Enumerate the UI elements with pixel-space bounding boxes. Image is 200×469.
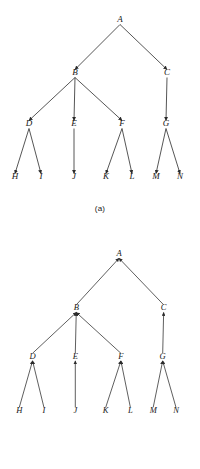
tree-node-e: E [72, 351, 79, 361]
tree-diagram-a: ABCDEFGHIJKLMN [0, 0, 200, 200]
tree-node-h: H [11, 171, 19, 181]
tree-node-k: K [102, 405, 110, 415]
tree-node-f: F [117, 351, 124, 361]
figure-root: ABCDEFGHIJKLMN (a) ABCDEFGHIJKLMN (b) [0, 0, 200, 469]
tree-node-n: N [176, 171, 184, 181]
tree-edge-b-d [29, 78, 75, 121]
tree-node-j: J [73, 405, 78, 415]
edges-group-b [19, 258, 176, 407]
tree-edge-d-h [15, 129, 29, 174]
tree-edge-f-b [76, 312, 121, 353]
tree-node-j: J [72, 171, 77, 181]
tree-edge-m-g [153, 361, 163, 408]
tree-node-g: G [160, 351, 166, 361]
tree-edge-c-a [119, 258, 164, 305]
tree-edge-a-b [75, 25, 120, 70]
tree-diagram-b: ABCDEFGHIJKLMN [0, 235, 200, 425]
tree-edge-b-a [76, 258, 119, 305]
tree-edge-e-b [75, 312, 76, 353]
tree-edge-b-f [75, 78, 122, 121]
tree-panel-b: ABCDEFGHIJKLMN (b) [0, 235, 200, 469]
tree-edge-d-b [33, 312, 77, 353]
tree-node-d: D [25, 118, 33, 128]
caption-a: (a) [0, 204, 200, 213]
tree-node-l: L [127, 405, 133, 415]
tree-node-c: C [161, 302, 167, 312]
tree-node-n: N [172, 405, 180, 415]
tree-edge-n-g [163, 361, 176, 408]
tree-node-a: A [115, 248, 122, 258]
tree-node-l: L [128, 171, 134, 181]
tree-edge-l-f [121, 361, 130, 408]
tree-edge-g-c [163, 312, 164, 353]
tree-node-m: M [149, 405, 158, 415]
tree-node-a: A [116, 14, 123, 24]
tree-edge-c-g [166, 78, 167, 121]
tree-edge-f-l [122, 129, 132, 174]
tree-node-e: E [70, 118, 77, 128]
tree-node-b: B [74, 302, 80, 312]
tree-node-k: K [102, 171, 110, 181]
tree-edge-d-i [29, 129, 41, 174]
tree-edge-f-k [106, 129, 122, 174]
tree-edge-g-m [156, 129, 166, 174]
tree-node-m: M [151, 171, 160, 181]
tree-panel-a: ABCDEFGHIJKLMN (a) [0, 0, 200, 228]
tree-node-g: G [163, 118, 170, 128]
tree-node-d: D [28, 351, 36, 361]
edges-group-a [15, 25, 180, 174]
tree-node-c: C [164, 67, 171, 77]
tree-node-i: I [42, 405, 47, 415]
tree-edge-h-d [19, 361, 32, 408]
tree-node-i: I [39, 171, 44, 181]
tree-edge-k-f [106, 361, 121, 408]
tree-edge-i-d [33, 361, 44, 408]
tree-edge-a-c [120, 25, 167, 70]
tree-node-b: B [72, 67, 78, 77]
tree-edge-b-e [74, 78, 75, 121]
tree-node-f: F [118, 118, 125, 128]
tree-node-h: H [15, 405, 23, 415]
tree-edge-g-n [166, 129, 180, 174]
